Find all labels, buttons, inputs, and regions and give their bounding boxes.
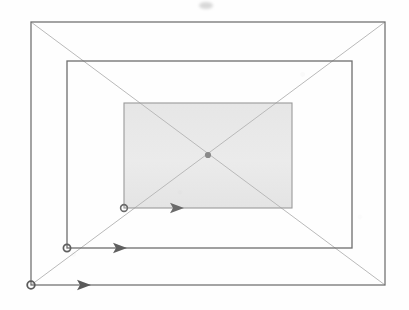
scan-artifacts-group bbox=[199, 2, 213, 9]
vanishing-point-marker bbox=[205, 152, 211, 158]
arrows-group bbox=[27, 203, 184, 290]
arrow-middle bbox=[63, 243, 127, 253]
perspective-diagram bbox=[0, 0, 409, 310]
arrow-outer bbox=[27, 280, 91, 290]
figure-root bbox=[0, 0, 409, 310]
top-edge-smudge bbox=[199, 2, 213, 9]
vanishing-point-group bbox=[205, 152, 211, 158]
